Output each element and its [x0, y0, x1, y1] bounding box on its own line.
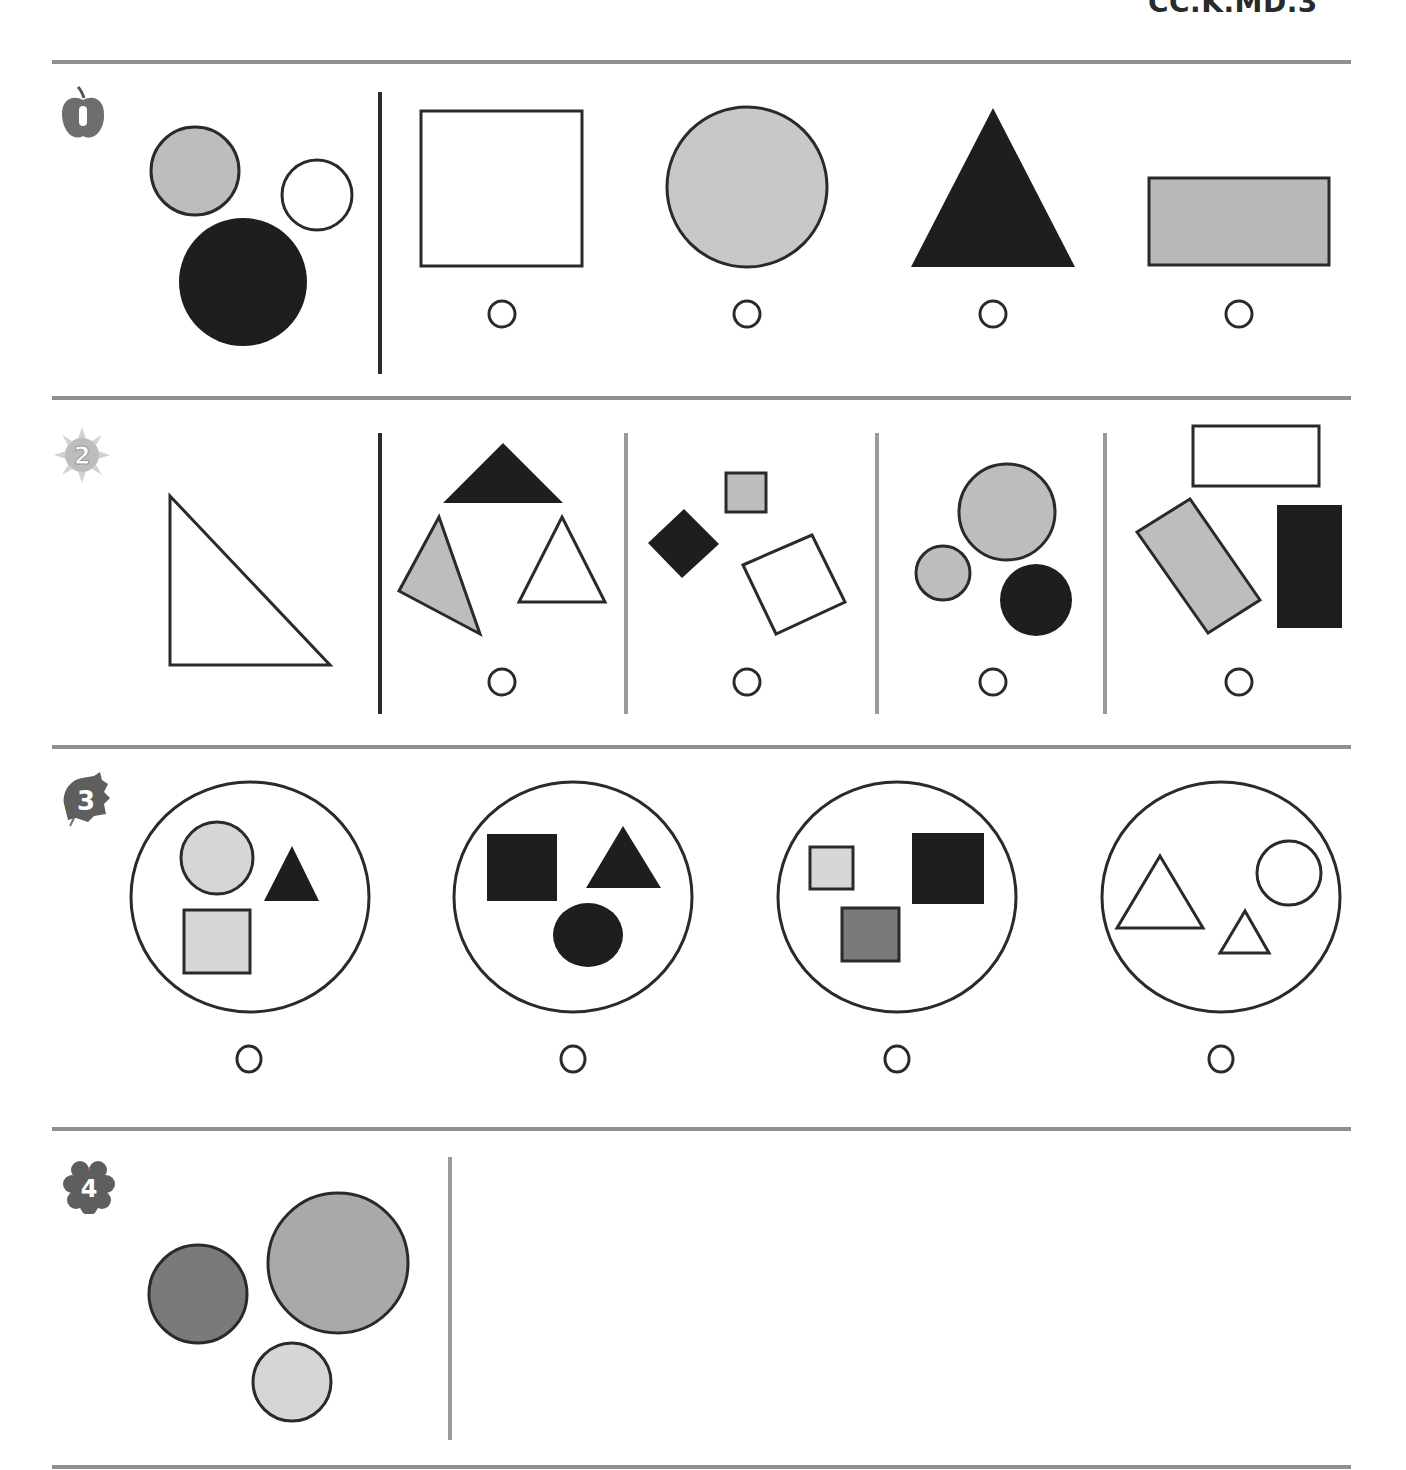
answer-bubble-q2-3[interactable] [980, 669, 1006, 695]
answer-bubble-q3-2[interactable] [561, 1046, 585, 1072]
question-3-choice-2 [454, 782, 692, 1012]
answer-bubble-q3-4[interactable] [1209, 1046, 1233, 1072]
answer-bubble-q2-1[interactable] [489, 669, 515, 695]
question-1-choice-1 [421, 111, 582, 266]
question-2-choice-4 [1137, 426, 1342, 633]
question-4-prompt [149, 1193, 408, 1421]
answer-bubble-q2-4[interactable] [1226, 669, 1252, 695]
answer-bubble-q1-1[interactable] [489, 301, 515, 327]
question-1-choice-2 [667, 107, 827, 267]
answer-bubble-q3-3[interactable] [885, 1046, 909, 1072]
question-1-choice-4 [1149, 178, 1329, 265]
worksheet-shapes [0, 0, 1406, 1470]
question-2-choice-2 [648, 473, 845, 634]
question-1-choice-3 [911, 108, 1075, 267]
question-2-choice-3 [916, 464, 1072, 636]
question-3-choice-4 [1102, 782, 1340, 1012]
question-1-prompt [151, 127, 352, 346]
answer-bubble-q3-1[interactable] [237, 1046, 261, 1072]
answer-bubble-q1-4[interactable] [1226, 301, 1252, 327]
question-2-prompt [170, 496, 330, 665]
answer-bubble-q2-2[interactable] [734, 669, 760, 695]
answer-bubble-q1-2[interactable] [734, 301, 760, 327]
question-3-choice-3 [778, 782, 1016, 1012]
answer-bubble-q1-3[interactable] [980, 301, 1006, 327]
question-2-choice-1 [399, 443, 605, 634]
question-3-choice-1 [131, 782, 369, 1012]
